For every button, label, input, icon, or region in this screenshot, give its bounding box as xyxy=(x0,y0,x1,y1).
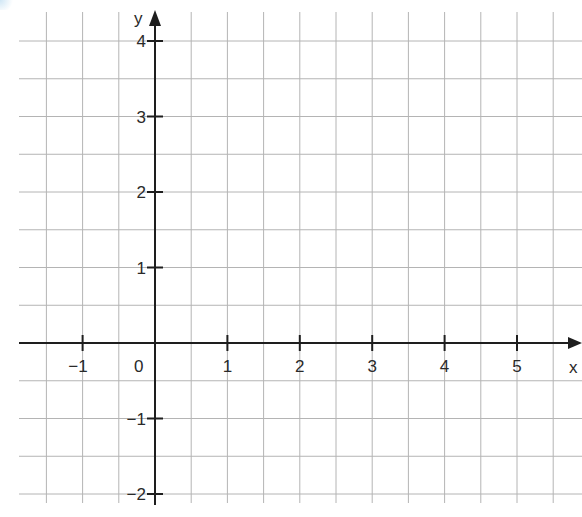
x-axis-label: x xyxy=(569,358,578,377)
y-axis-label: y xyxy=(134,9,143,28)
coordinate-plane: −1123454321−1−2 x y 0 xyxy=(0,0,582,517)
x-tick-label: 2 xyxy=(295,357,304,376)
x-axis-arrow-icon xyxy=(568,337,582,349)
x-tick-label: 4 xyxy=(440,357,449,376)
y-tick-label: 1 xyxy=(137,259,146,278)
y-tick-label: 4 xyxy=(137,32,146,51)
y-tick-label: −1 xyxy=(127,410,146,429)
origin-label: 0 xyxy=(134,357,143,376)
x-tick-label: −1 xyxy=(68,357,87,376)
y-tick-label: 2 xyxy=(137,183,146,202)
x-tick-label: 5 xyxy=(512,357,521,376)
y-axis-arrow-icon xyxy=(149,10,161,26)
y-tick-label: 3 xyxy=(137,108,146,127)
x-tick-label: 3 xyxy=(367,357,376,376)
grid-lines xyxy=(19,12,582,503)
x-tick-label: 1 xyxy=(223,357,232,376)
y-tick-label: −2 xyxy=(127,485,146,504)
axes xyxy=(19,10,582,505)
